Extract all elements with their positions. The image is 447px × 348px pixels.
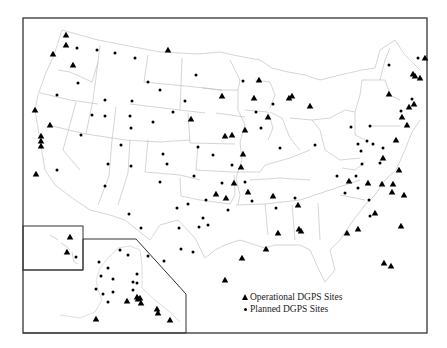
planned-site-marker bbox=[107, 163, 110, 166]
state-boundaries bbox=[35, 30, 420, 282]
operational-site-marker bbox=[379, 181, 386, 187]
operational-site-marker bbox=[380, 155, 387, 161]
state-boundary bbox=[340, 195, 365, 200]
planned-site-marker bbox=[244, 181, 247, 184]
planned-site-marker bbox=[130, 127, 133, 130]
planned-site-marker bbox=[102, 293, 105, 296]
operational-site-marker bbox=[93, 316, 100, 322]
planned-sites-layer bbox=[56, 47, 420, 304]
planned-site-marker bbox=[193, 175, 196, 178]
operational-site-marker bbox=[390, 181, 397, 187]
operational-site-marker bbox=[165, 47, 172, 53]
planned-site-marker bbox=[114, 52, 117, 55]
planned-site-marker bbox=[159, 181, 162, 184]
legend-operational: Operational DGPS Sites bbox=[242, 291, 342, 303]
dot-marker-icon bbox=[244, 308, 247, 311]
state-boundary bbox=[98, 107, 116, 205]
state-boundary bbox=[318, 203, 320, 240]
planned-site-marker bbox=[98, 261, 101, 264]
operational-site-marker bbox=[63, 32, 70, 38]
planned-site-marker bbox=[221, 182, 224, 185]
operational-site-marker bbox=[404, 122, 411, 128]
state-boundary bbox=[270, 112, 300, 150]
operational-site-marker bbox=[386, 91, 393, 97]
state-boundary bbox=[48, 62, 98, 134]
planned-site-marker bbox=[172, 111, 175, 114]
operational-site-marker bbox=[238, 164, 245, 170]
operational-site-marker bbox=[388, 263, 395, 269]
planned-site-marker bbox=[231, 164, 234, 167]
planned-site-marker bbox=[75, 256, 78, 259]
operational-site-marker bbox=[355, 226, 362, 232]
planned-site-marker bbox=[417, 57, 420, 60]
operational-site-marker bbox=[372, 210, 379, 216]
hawaii-inset-frame bbox=[23, 226, 83, 270]
state-boundary bbox=[196, 145, 232, 172]
planned-site-marker bbox=[369, 125, 372, 128]
operational-site-marker bbox=[33, 171, 40, 177]
state-boundary bbox=[118, 140, 130, 205]
operational-site-marker bbox=[222, 277, 229, 283]
planned-site-marker bbox=[107, 301, 110, 304]
operational-site-marker bbox=[63, 42, 70, 48]
planned-site-marker bbox=[119, 249, 122, 252]
operational-site-marker bbox=[295, 202, 302, 208]
operational-site-marker bbox=[393, 137, 400, 143]
planned-site-marker bbox=[140, 227, 143, 230]
planned-site-marker bbox=[120, 144, 123, 147]
planned-site-marker bbox=[132, 281, 135, 284]
planned-site-marker bbox=[357, 143, 360, 146]
operational-site-marker bbox=[275, 230, 282, 236]
operational-site-marker bbox=[229, 132, 236, 138]
planned-site-marker bbox=[357, 187, 360, 190]
planned-site-marker bbox=[176, 207, 179, 210]
planned-site-marker bbox=[134, 57, 137, 60]
planned-site-marker bbox=[147, 255, 150, 258]
operational-site-marker bbox=[154, 306, 161, 312]
operational-site-marker bbox=[167, 317, 174, 323]
planned-site-marker bbox=[178, 227, 181, 230]
state-boundary bbox=[362, 80, 400, 100]
legend-operational-label: Operational DGPS Sites bbox=[250, 291, 342, 303]
planned-site-marker bbox=[180, 248, 183, 251]
operational-site-marker bbox=[231, 180, 238, 186]
planned-site-marker bbox=[227, 209, 230, 212]
planned-site-marker bbox=[147, 81, 150, 84]
state-boundary bbox=[236, 180, 360, 205]
planned-site-marker bbox=[104, 115, 107, 118]
triangle-marker-icon bbox=[242, 294, 248, 300]
planned-site-marker bbox=[361, 163, 364, 166]
planned-site-marker bbox=[388, 64, 391, 67]
operational-site-marker bbox=[223, 195, 230, 201]
planned-site-marker bbox=[369, 215, 372, 218]
planned-site-marker bbox=[411, 98, 414, 101]
planned-site-marker bbox=[355, 175, 358, 178]
planned-site-marker bbox=[128, 213, 131, 216]
operational-site-marker bbox=[389, 189, 396, 195]
operational-site-marker bbox=[67, 234, 74, 240]
operational-site-marker bbox=[32, 107, 39, 113]
alaska-inset-frame bbox=[23, 239, 186, 333]
state-boundary bbox=[150, 120, 420, 282]
operational-site-marker bbox=[251, 95, 258, 101]
planned-site-marker bbox=[159, 89, 162, 92]
map-legend: Operational DGPS Sites Planned DGPS Site… bbox=[242, 291, 342, 315]
state-boundary bbox=[265, 204, 268, 235]
planned-site-marker bbox=[136, 282, 139, 285]
alaska-outline bbox=[60, 246, 180, 322]
planned-site-marker bbox=[91, 114, 94, 117]
planned-site-marker bbox=[272, 103, 275, 106]
planned-site-marker bbox=[136, 273, 139, 276]
operational-site-marker bbox=[381, 260, 388, 266]
operational-site-marker bbox=[239, 255, 246, 261]
planned-site-marker bbox=[56, 94, 59, 97]
state-boundary bbox=[40, 93, 98, 104]
planned-site-marker bbox=[366, 140, 369, 143]
planned-site-marker bbox=[379, 162, 382, 165]
planned-site-marker bbox=[163, 260, 166, 263]
planned-site-marker bbox=[368, 199, 371, 202]
operational-site-marker bbox=[396, 167, 403, 173]
state-boundary bbox=[145, 140, 200, 180]
planned-site-marker bbox=[275, 207, 278, 210]
planned-site-marker bbox=[400, 110, 403, 113]
